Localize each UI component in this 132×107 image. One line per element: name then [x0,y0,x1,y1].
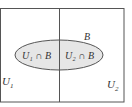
label-b: B [84,31,90,42]
label-u2-intersect-b: U₂ ∩ B [65,50,94,61]
label-u1: U1 [2,75,13,90]
label-u1-intersect-b: U₁ ∩ B [22,50,51,61]
label-u2: U2 [107,78,119,93]
venn-partition-diagram: U₁ ∩ B U₂ ∩ B B U1 U2 [0,0,132,107]
